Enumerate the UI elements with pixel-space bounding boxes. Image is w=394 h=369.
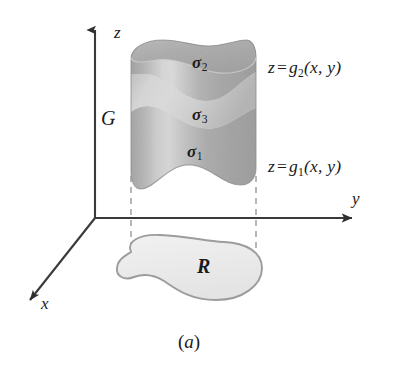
sigma-1-symbol: σ — [187, 142, 196, 161]
caption-letter: a — [184, 331, 194, 352]
sigma-2-subscript: 2 — [201, 61, 207, 74]
sigma-3-symbol: σ — [192, 105, 201, 124]
lower-surface-equation: z=g1(x, y) — [268, 158, 341, 178]
upper-eq-lhs: z — [268, 57, 275, 77]
y-axis-label: y — [352, 190, 360, 207]
upper-eq-function: g — [289, 57, 298, 77]
sigma-3-label: σ3 — [192, 106, 207, 126]
x-axis-label: x — [41, 295, 49, 312]
lower-eq-lhs: z — [268, 156, 275, 176]
figure-container: z y x G σ2 σ3 σ1 z=g2(x, y) z=g1(x, y) R… — [0, 0, 394, 369]
caption-close-paren: ) — [194, 331, 200, 352]
x-axis — [30, 218, 95, 300]
region-r-shape — [117, 235, 262, 300]
lower-eq-function: g — [289, 156, 298, 176]
figure-caption: (a) — [178, 332, 200, 351]
sigma-2-symbol: σ — [192, 53, 201, 72]
lower-eq-args: (x, y) — [304, 156, 341, 176]
sigma-2-label: σ2 — [192, 54, 207, 74]
z-axis-label: z — [114, 24, 121, 41]
solid-g-label: G — [101, 108, 115, 128]
upper-eq-args: (x, y) — [304, 57, 341, 77]
region-r-label: R — [197, 256, 210, 276]
upper-surface-equation: z=g2(x, y) — [268, 59, 341, 79]
lower-eq-operator: = — [275, 156, 289, 176]
sigma-3-subscript: 3 — [201, 113, 207, 126]
sigma-1-subscript: 1 — [196, 150, 202, 163]
upper-eq-operator: = — [275, 57, 289, 77]
sigma-1-label: σ1 — [187, 143, 202, 163]
region-r — [117, 235, 262, 300]
